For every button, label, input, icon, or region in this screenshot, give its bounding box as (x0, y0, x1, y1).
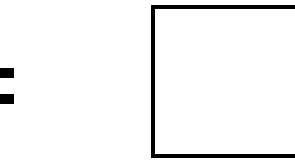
equals-sign-top-bar (0, 68, 14, 78)
equals-sign-bottom-bar (0, 94, 14, 104)
empty-rectangle (151, 5, 295, 158)
